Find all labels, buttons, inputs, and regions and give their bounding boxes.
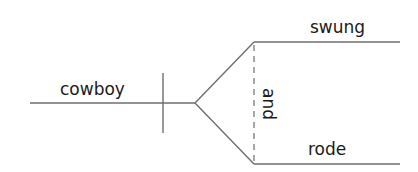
- sentence-diagram: cowboy swung rode and: [0, 0, 418, 172]
- fork-upper-branch: [195, 42, 254, 103]
- predicate-word-top: swung: [310, 17, 365, 37]
- subject-word: cowboy: [60, 79, 125, 99]
- predicate-word-bottom: rode: [308, 139, 346, 159]
- conjunction-word: and: [259, 88, 279, 120]
- fork-lower-branch: [195, 103, 254, 164]
